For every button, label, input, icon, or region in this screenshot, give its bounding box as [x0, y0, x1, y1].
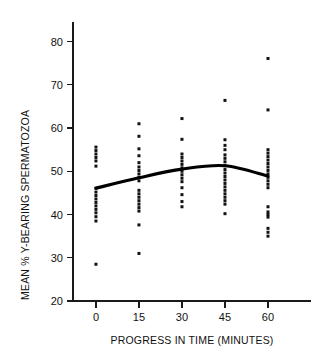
data-point — [266, 155, 269, 158]
scatter-plot-figure: 20304050607080 015304560 PROGRESS IN TIM… — [0, 0, 326, 351]
data-point — [223, 196, 226, 199]
data-point — [223, 178, 226, 181]
data-point — [94, 191, 97, 194]
y-tick-label: 60 — [51, 122, 63, 134]
data-point — [94, 194, 97, 197]
data-point — [94, 149, 97, 152]
y-axis-title: MEAN % Y-BEARING SPERMATOZOA — [19, 110, 31, 300]
data-point — [137, 122, 140, 125]
x-tick-label: 45 — [219, 311, 231, 323]
data-point — [94, 197, 97, 200]
data-point — [266, 235, 269, 238]
data-point — [94, 156, 97, 159]
data-point — [223, 199, 226, 202]
data-point — [266, 148, 269, 151]
data-point — [94, 165, 97, 168]
data-point — [94, 159, 97, 162]
data-point — [180, 193, 183, 196]
data-point — [180, 200, 183, 203]
data-point — [266, 152, 269, 155]
y-tick-label: 50 — [51, 165, 63, 177]
data-point — [94, 220, 97, 223]
y-tick-label: 80 — [51, 36, 63, 48]
data-point — [266, 179, 269, 182]
data-point — [266, 186, 269, 189]
data-point — [266, 227, 269, 230]
x-tick-label: 30 — [176, 311, 188, 323]
data-point — [137, 172, 140, 175]
data-point — [137, 192, 140, 195]
data-point — [180, 156, 183, 159]
data-point — [223, 99, 226, 102]
data-point — [137, 223, 140, 226]
data-point — [266, 159, 269, 162]
x-tick-label: 60 — [262, 311, 274, 323]
data-point — [266, 216, 269, 219]
data-point — [223, 168, 226, 171]
data-point — [137, 179, 140, 182]
data-point — [180, 117, 183, 120]
data-point — [137, 189, 140, 192]
data-point — [266, 165, 269, 168]
data-point — [137, 135, 140, 138]
data-point — [180, 163, 183, 166]
x-tick-label: 15 — [133, 311, 145, 323]
data-point — [266, 108, 269, 111]
data-point — [180, 159, 183, 162]
data-point — [266, 231, 269, 234]
data-point — [94, 263, 97, 266]
x-axis-tick-group: 015304560 — [93, 301, 274, 323]
y-tick-label: 70 — [51, 79, 63, 91]
data-point — [137, 169, 140, 172]
data-point — [266, 210, 269, 213]
data-point — [137, 161, 140, 164]
data-point — [180, 186, 183, 189]
data-point — [223, 185, 226, 188]
data-point — [94, 153, 97, 156]
data-point — [223, 160, 226, 163]
data-point — [94, 211, 97, 214]
data-point — [223, 153, 226, 156]
data-point — [137, 154, 140, 157]
data-point — [137, 206, 140, 209]
x-axis-title: PROGRESS IN TIME (MINUTES) — [110, 334, 273, 346]
data-point — [223, 189, 226, 192]
data-point — [180, 177, 183, 180]
data-point — [223, 172, 226, 175]
chart-canvas: 20304050607080 015304560 PROGRESS IN TIM… — [0, 0, 326, 351]
data-point — [180, 205, 183, 208]
data-point — [223, 192, 226, 195]
data-point — [223, 157, 226, 160]
data-point — [180, 138, 183, 141]
data-point — [137, 203, 140, 206]
data-point — [266, 169, 269, 172]
data-point — [94, 201, 97, 204]
data-point — [266, 183, 269, 186]
data-point — [266, 205, 269, 208]
data-point — [137, 199, 140, 202]
data-point — [223, 175, 226, 178]
data-point — [180, 180, 183, 183]
data-point — [223, 182, 226, 185]
y-tick-label: 30 — [51, 252, 63, 264]
data-point — [137, 165, 140, 168]
data-point — [94, 215, 97, 218]
data-point — [223, 212, 226, 215]
y-tick-label: 20 — [51, 295, 63, 307]
data-point — [137, 147, 140, 150]
x-tick-label: 0 — [93, 311, 99, 323]
data-point — [266, 162, 269, 165]
data-point — [137, 252, 140, 255]
data-point — [223, 138, 226, 141]
y-tick-label: 40 — [51, 209, 63, 221]
y-axis-tick-group: 20304050607080 — [51, 36, 73, 307]
data-point — [94, 204, 97, 207]
data-point — [180, 173, 183, 176]
data-points-group — [94, 57, 269, 266]
data-point — [94, 208, 97, 211]
data-point — [137, 210, 140, 213]
data-point — [223, 203, 226, 206]
data-point — [223, 148, 226, 151]
data-point — [266, 57, 269, 60]
data-point — [94, 146, 97, 149]
